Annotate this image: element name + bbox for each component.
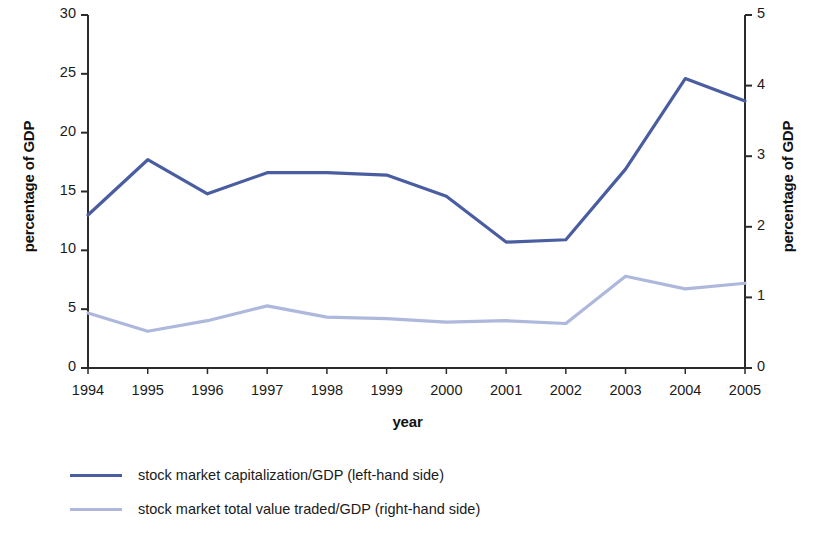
x-axis-tick-2005: 2005	[715, 382, 775, 398]
chart-legend: stock market capitalization/GDP (left-ha…	[70, 458, 710, 526]
y-axis-right-tick-5: 5	[757, 5, 803, 21]
y-axis-left-tick-5: 5	[30, 299, 76, 315]
x-axis-tick-1994: 1994	[58, 382, 118, 398]
y-axis-right-tick-2: 2	[757, 217, 803, 233]
x-axis-tick-1996: 1996	[177, 382, 237, 398]
y-axis-left-tick-10: 10	[30, 240, 76, 256]
series-lines	[88, 79, 745, 332]
legend-label: stock market capitalization/GDP (left-ha…	[138, 467, 444, 483]
x-axis-tick-2001: 2001	[476, 382, 536, 398]
x-axis-tick-2002: 2002	[536, 382, 596, 398]
y-axis-right-tick-0: 0	[757, 358, 803, 374]
x-axis-tick-2000: 2000	[416, 382, 476, 398]
legend-swatch-icon	[70, 508, 122, 511]
x-axis-tick-1997: 1997	[237, 382, 297, 398]
plot-area	[0, 0, 815, 534]
y-axis-left-tick-20: 20	[30, 123, 76, 139]
x-axis-tick-2004: 2004	[655, 382, 715, 398]
x-axis-tick-1998: 1998	[297, 382, 357, 398]
series-line-1	[88, 276, 745, 331]
legend-item[interactable]: stock market capitalization/GDP (left-ha…	[70, 458, 710, 492]
y-axis-left-tick-30: 30	[30, 5, 76, 21]
chart-container: percentage of GDP percentage of GDP year…	[0, 0, 815, 534]
x-axis-tick-1999: 1999	[357, 382, 417, 398]
axis-lines	[88, 15, 745, 368]
x-axis-tick-2003: 2003	[596, 382, 656, 398]
legend-label: stock market total value traded/GDP (rig…	[138, 501, 480, 517]
y-axis-left-tick-15: 15	[30, 182, 76, 198]
legend-item[interactable]: stock market total value traded/GDP (rig…	[70, 492, 710, 526]
series-line-0	[88, 79, 745, 243]
y-axis-right-tick-4: 4	[757, 76, 803, 92]
y-axis-right-tick-1: 1	[757, 287, 803, 303]
legend-swatch-icon	[70, 474, 122, 477]
y-axis-left-tick-25: 25	[30, 64, 76, 80]
x-axis-tick-1995: 1995	[118, 382, 178, 398]
y-axis-right-tick-3: 3	[757, 146, 803, 162]
y-axis-left-tick-0: 0	[30, 358, 76, 374]
